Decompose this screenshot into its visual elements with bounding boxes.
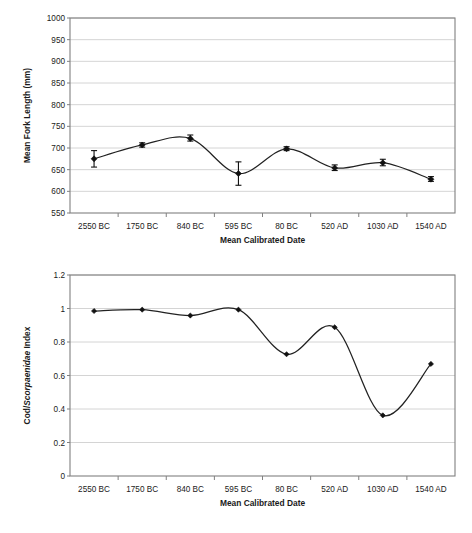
y-axis-tick-label: 950 [51, 36, 65, 45]
x-axis-category-label: 2550 BC [78, 222, 110, 231]
plot-frame [70, 18, 455, 213]
x-axis-category-label: 80 BC [275, 485, 298, 494]
y-axis-tick-label: 0.4 [54, 405, 66, 414]
data-point-marker[interactable] [140, 307, 145, 312]
data-point-marker[interactable] [380, 413, 385, 418]
data-point-marker[interactable] [91, 156, 97, 162]
y-axis-tick-label: 1.2 [54, 271, 66, 280]
y-axis-tick-label: 850 [51, 79, 65, 88]
x-axis-category-label: 1540 AD [415, 222, 446, 231]
y-axis-tick-label: 0.8 [54, 338, 66, 347]
data-point-marker[interactable] [188, 313, 193, 318]
y-axis-title-suffix: Index [22, 326, 32, 351]
x-axis-category-label: 595 BC [225, 485, 252, 494]
data-point-marker[interactable] [380, 160, 386, 166]
fork-length-plot: 55060065070075080085090095010002550 BC17… [0, 0, 472, 266]
y-axis-tick-label: 800 [51, 101, 65, 110]
x-axis-category-label: 2550 BC [78, 485, 110, 494]
y-axis-title-italic: Scorpaenidae [22, 350, 32, 405]
x-axis-category-label: 80 BC [275, 222, 298, 231]
y-axis-tick-label: 0.2 [54, 439, 66, 448]
y-axis-tick-label: 900 [51, 57, 65, 66]
mean-fork-length-chart: 55060065070075080085090095010002550 BC17… [0, 0, 472, 266]
x-axis-title: Mean Calibrated Date [220, 498, 306, 508]
x-axis-category-label: 1750 BC [126, 485, 158, 494]
x-axis-category-label: 840 BC [177, 485, 204, 494]
y-axis-tick-label: 750 [51, 122, 65, 131]
y-axis-tick-label: 1 [60, 305, 65, 314]
y-axis-tick-label: 0 [60, 472, 65, 481]
x-axis-category-label: 1540 AD [415, 485, 446, 494]
y-axis-title: Cod/Scorpaenidae Index [22, 326, 32, 424]
y-axis-tick-label: 700 [51, 144, 65, 153]
cod-index-plot: 00.20.40.60.811.22550 BC1750 BC840 BC595… [0, 266, 472, 533]
y-axis-tick-label: 550 [51, 209, 65, 218]
x-axis-title: Mean Calibrated Date [220, 235, 306, 245]
x-axis-category-label: 1750 BC [126, 222, 158, 231]
y-axis-tick-label: 1000 [47, 14, 66, 23]
x-axis-category-label: 520 AD [321, 222, 348, 231]
x-axis-category-label: 1030 AD [367, 485, 398, 494]
data-point-marker[interactable] [91, 308, 96, 313]
data-point-marker[interactable] [236, 307, 241, 312]
x-axis-category-label: 595 BC [225, 222, 252, 231]
y-axis-tick-label: 600 [51, 187, 65, 196]
series-line [94, 308, 431, 416]
y-axis-tick-label: 0.6 [54, 372, 66, 381]
y-axis-title: Mean Fork Length (mm) [22, 68, 32, 163]
x-axis-category-label: 1030 AD [367, 222, 398, 231]
data-point-marker[interactable] [235, 171, 241, 177]
cod-scorpaenidae-index-chart: 00.20.40.60.811.22550 BC1750 BC840 BC595… [0, 266, 472, 533]
x-axis-category-label: 840 BC [177, 222, 204, 231]
x-axis-category-label: 520 AD [321, 485, 348, 494]
y-axis-title-prefix: Cod/ [22, 405, 32, 424]
y-axis-tick-label: 650 [51, 166, 65, 175]
data-point-marker[interactable] [284, 352, 289, 357]
